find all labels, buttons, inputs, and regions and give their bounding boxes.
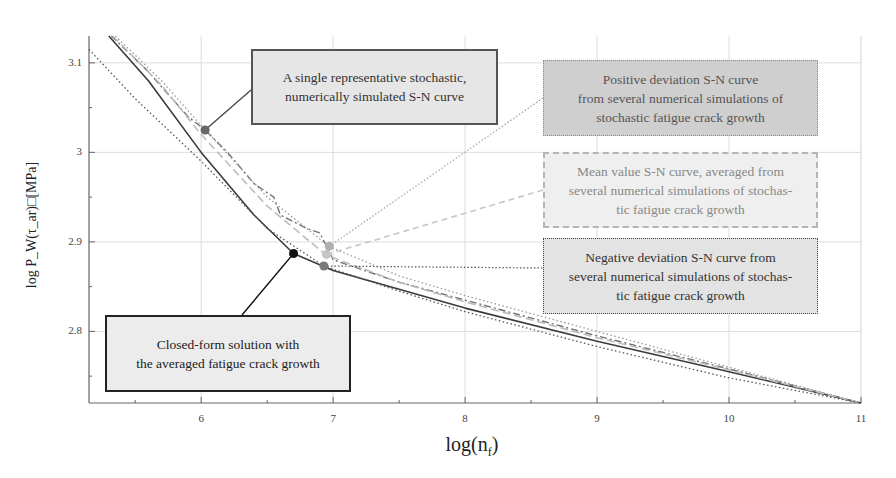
x-tick-label: 11 (853, 412, 869, 424)
callout-mean-value: Mean value S-N curve, averaged from seve… (543, 152, 818, 228)
y-axis-label-text: log P_W(τ_ar)□[MPa] (24, 162, 39, 288)
x-tick-label: 8 (457, 412, 473, 424)
y-tick-label: 2.9 (50, 235, 82, 247)
callout-line: several numerical simulations of stochas… (544, 267, 817, 286)
x-tick-label: 9 (589, 412, 605, 424)
callout-line: several numerical simulations of stochas… (545, 181, 816, 200)
callout-positive-deviation: Positive deviation S-N curve from severa… (543, 60, 818, 136)
leader-closed-form (242, 254, 294, 315)
callout-line: numerically simulated S-N curve (253, 87, 496, 106)
marker-mean (322, 250, 331, 259)
leader-mean (327, 190, 543, 254)
callout-line: stochastic fatigue crack growth (544, 108, 817, 127)
y-tick-label: 3.1 (50, 56, 82, 68)
leader-single (205, 90, 251, 130)
x-tick-label: 7 (325, 412, 341, 424)
x-tick-label: 6 (193, 412, 209, 424)
x-axis-label-main: log(n (446, 433, 488, 455)
callout-closed-form-solution: Closed-form solution with the averaged f… (105, 315, 351, 392)
callout-single-stochastic-curve: A single representative stochastic, nume… (251, 49, 498, 125)
callout-line: the averaged fatigue crack growth (107, 354, 349, 373)
callout-line: Closed-form solution with (107, 335, 349, 354)
marker-negative (319, 262, 328, 271)
y-axis-label: log P_W(τ_ar)□[MPa] (24, 162, 40, 288)
marker-single (201, 125, 210, 134)
y-tick-label: 3 (50, 145, 82, 157)
callout-negative-deviation: Negative deviation S-N curve from severa… (543, 238, 818, 314)
callout-line: Mean value S-N curve, averaged from (545, 162, 816, 181)
callout-line: from several numerical simulations of (544, 89, 817, 108)
callout-line: tic fatigue crack growth (544, 286, 817, 305)
callout-line: Positive deviation S-N curve (544, 70, 817, 89)
x-tick-label: 10 (721, 412, 737, 424)
y-tick-label: 2.8 (50, 324, 82, 336)
callout-line: tic fatigue crack growth (545, 200, 816, 219)
marker-positive (325, 242, 334, 251)
callout-line: A single representative stochastic, (253, 68, 496, 87)
callout-line: Negative deviation S-N curve from (544, 248, 817, 267)
x-axis-label: log(nf) (446, 433, 499, 460)
x-axis-label-close: ) (492, 433, 499, 455)
marker-closed-form (289, 249, 298, 258)
